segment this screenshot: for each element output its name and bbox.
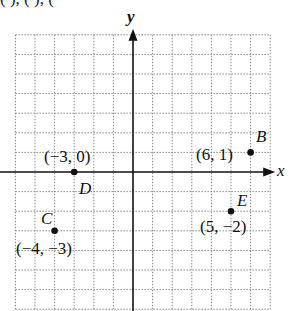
point-B-dot <box>247 149 254 156</box>
point-C-coords: (−4, −3) <box>16 240 72 257</box>
x-axis-label: x <box>277 162 285 179</box>
grid-lines <box>15 35 270 311</box>
y-axis-label: y <box>127 8 135 25</box>
x-axis-arrow-icon <box>263 168 275 177</box>
point-D-dot <box>71 169 78 176</box>
point-E-coords: (5, −2) <box>200 218 246 235</box>
point-D-name: D <box>79 180 91 197</box>
point-D-coords: (−3, 0) <box>44 148 90 165</box>
point-C-dot <box>51 228 58 235</box>
point-E-dot <box>228 208 235 215</box>
point-B-name: B <box>256 128 266 145</box>
point-C-name: C <box>41 210 52 227</box>
point-E-name: E <box>237 192 247 209</box>
axes <box>0 29 275 311</box>
point-B-coords: (6, 1) <box>196 146 233 163</box>
